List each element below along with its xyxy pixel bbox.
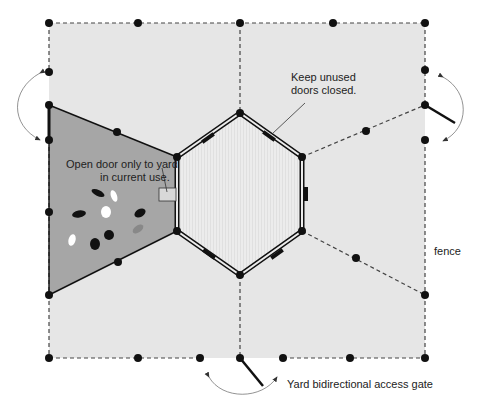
access-gate-label: Yard bidirectional access gate — [287, 378, 433, 390]
chicken-icon — [104, 230, 114, 240]
fence-label: fence — [434, 245, 461, 257]
left-gate-swing-arrow — [18, 73, 41, 140]
open-door-label-line2: in current use. — [100, 171, 170, 183]
yard-layout-diagram: Open door only to yard in current use. K… — [0, 0, 484, 420]
door-left-open[interactable] — [159, 188, 176, 201]
keep-closed-label-line1: Keep unused — [291, 71, 356, 83]
right-gate[interactable] — [425, 105, 455, 123]
keep-closed-label-line2: doors closed. — [291, 84, 356, 96]
right-gate-swing-arrow — [443, 77, 463, 141]
chicken-icon — [90, 238, 100, 250]
bottom-gate[interactable] — [240, 358, 263, 386]
open-door-label-line1: Open door only to yard — [66, 158, 178, 170]
bottom-gate-swing-arrow — [209, 377, 277, 394]
chicken-icon — [101, 206, 111, 218]
door-right[interactable] — [304, 187, 308, 201]
